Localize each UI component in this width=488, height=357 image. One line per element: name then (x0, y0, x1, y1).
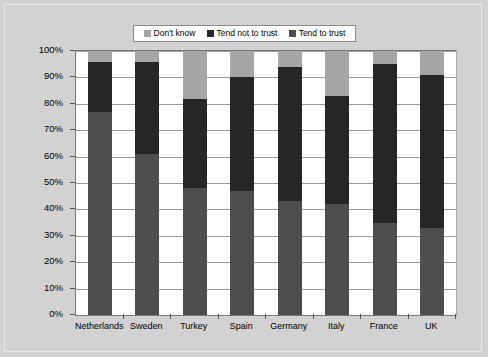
bar-segment (135, 51, 159, 62)
legend-swatch-icon (207, 30, 214, 37)
bar-segment (88, 112, 112, 315)
bar-segment (135, 62, 159, 154)
x-axis-tick (455, 314, 456, 319)
bar-segment (230, 191, 254, 315)
x-axis-label: Sweden (123, 322, 171, 331)
bar-segment (420, 75, 444, 228)
y-axis-label: 90% (17, 71, 63, 81)
gridline (76, 51, 456, 52)
bar-segment (278, 51, 302, 67)
y-axis-label: 100% (17, 45, 63, 55)
bar-segment (325, 51, 349, 96)
bar-segment (373, 64, 397, 222)
bar-segment (183, 51, 207, 99)
bar-segment (88, 62, 112, 112)
bar-segment (420, 51, 444, 75)
gridline (76, 104, 456, 105)
x-axis-label: Turkey (170, 322, 218, 331)
x-axis-label: Germany (265, 322, 313, 331)
bar-stack (135, 51, 159, 315)
legend-label: Don't know (154, 29, 196, 38)
legend-item: Don't know (144, 29, 196, 38)
x-axis-label: Spain (218, 322, 266, 331)
bar-segment (230, 77, 254, 191)
bar-stack (325, 51, 349, 315)
gridline (76, 130, 456, 131)
chart-legend: Don't knowTend not to trustTend to trust (133, 25, 356, 42)
bar-segment (373, 223, 397, 315)
legend-label: Tend not to trust (217, 29, 278, 38)
x-axis-tick (265, 314, 266, 319)
gridline (76, 183, 456, 184)
bar-stack (373, 51, 397, 315)
bar-segment (230, 51, 254, 77)
bar-segment (278, 201, 302, 315)
x-axis-label: UK (408, 322, 456, 331)
gridline (76, 209, 456, 210)
bar-segment (183, 99, 207, 189)
legend-swatch-icon (144, 30, 151, 37)
y-axis-label: 40% (17, 203, 63, 213)
bar-segment (135, 154, 159, 315)
legend-item: Tend to trust (289, 29, 346, 38)
x-axis-tick (360, 314, 361, 319)
gridline (76, 236, 456, 237)
legend-label: Tend to trust (299, 29, 346, 38)
y-axis-label: 70% (17, 124, 63, 134)
bar-stack (420, 51, 444, 315)
legend-swatch-icon (289, 30, 296, 37)
x-axis-tick (218, 314, 219, 319)
y-axis-label: 50% (17, 177, 63, 187)
bar-stack (183, 51, 207, 315)
x-axis-label: Italy (313, 322, 361, 331)
gridline (76, 289, 456, 290)
x-axis-label: France (360, 322, 408, 331)
bar-segment (325, 96, 349, 204)
bar-segment (88, 51, 112, 62)
bar-segment (183, 188, 207, 315)
x-axis-tick (408, 314, 409, 319)
plot-area (75, 50, 457, 316)
bar-stack (88, 51, 112, 315)
gridline (76, 157, 456, 158)
legend-item: Tend not to trust (207, 29, 278, 38)
bar-segment (373, 51, 397, 64)
x-axis-tick (123, 314, 124, 319)
bar-segment (278, 67, 302, 202)
bar-segment (325, 204, 349, 315)
x-axis-tick (170, 314, 171, 319)
y-axis-label: 20% (17, 256, 63, 266)
y-axis-label: 0% (17, 309, 63, 319)
bar-stack (278, 51, 302, 315)
y-axis-label: 30% (17, 230, 63, 240)
y-axis-label: 10% (17, 283, 63, 293)
bar-segment (420, 228, 444, 315)
gridline (76, 262, 456, 263)
gridline (76, 77, 456, 78)
chart-container: Don't knowTend not to trustTend to trust… (0, 0, 488, 357)
bar-stack (230, 51, 254, 315)
y-axis-label: 80% (17, 98, 63, 108)
x-axis-tick (313, 314, 314, 319)
y-axis-label: 60% (17, 151, 63, 161)
x-axis-label: Netherlands (75, 322, 123, 331)
